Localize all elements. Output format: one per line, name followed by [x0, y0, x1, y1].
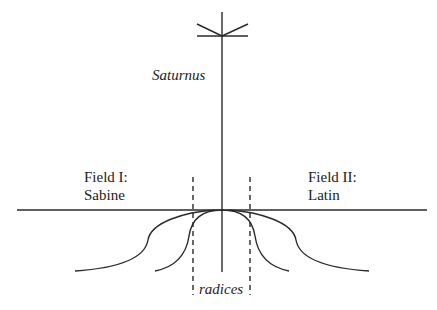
outer-root-left [75, 210, 215, 271]
inner-root-left [155, 210, 222, 271]
left-field-label-line1: Field I: [84, 168, 128, 186]
diagram-lines [0, 0, 437, 310]
left-field-label-line2: Sabine [84, 186, 125, 204]
top-branch-right [222, 24, 248, 36]
bottom-label: radices [199, 280, 243, 298]
diagram-canvas: Saturnus Field I: Sabine Field II: Latin… [0, 0, 437, 310]
top-branch-left [197, 24, 222, 36]
right-field-label-line2: Latin [308, 186, 340, 204]
inner-root-right [222, 210, 289, 271]
right-field-label-line1: Field II: [308, 168, 357, 186]
top-axis-label: Saturnus [152, 66, 205, 84]
